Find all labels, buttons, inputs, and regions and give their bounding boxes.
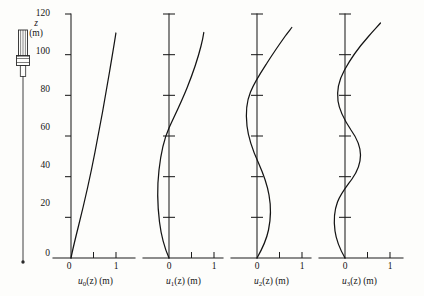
curve-mode-0 [71,33,116,258]
y-tick-0: 0 [22,248,50,259]
panel-mode-2 [229,0,314,296]
y-tick-80: 80 [22,84,50,95]
y-tick-100: 100 [22,46,50,57]
panel-mode-3 [317,0,407,296]
panel-3-caption-rest: (z) (m) [350,276,377,286]
curve-mode-2 [246,28,291,259]
panel-0-xtick-1: 1 [108,261,124,271]
y-tick-120: 120 [22,8,50,19]
panel-2-svg [229,0,314,296]
panel-mode-1 [141,0,226,296]
y-tick-60: 60 [22,122,50,133]
y-tick-20: 20 [22,198,50,209]
panel-3-caption: u3(z) (m) [307,276,412,287]
y-tick-40: 40 [22,160,50,171]
platform-block [17,56,30,66]
mode-shapes-figure: 120 z (m) 100 80 60 40 20 0 0 1 u0(z) (m… [0,0,424,296]
panel-1-xtick-1: 1 [206,261,222,271]
panel-2-caption-rest: (z) (m) [262,276,289,286]
base-marker [21,260,24,263]
panel-3-xtick-1: 1 [382,261,398,271]
panel-0-caption-rest: (z) (m) [86,276,113,286]
y-axis-title-symbol: z [22,18,50,29]
panel-3-svg [317,0,407,296]
pile-stub [20,66,25,77]
curve-mode-1 [158,33,204,259]
panel-2-xtick-0: 0 [249,261,265,271]
panel-mode-0 [53,0,138,296]
panel-0-svg [53,0,138,296]
panel-0-xtick-0: 0 [61,261,77,271]
curve-mode-3 [334,23,380,258]
panel-2-xtick-1: 1 [294,261,310,271]
panel-1-caption-rest: (z) (m) [174,276,201,286]
panel-1-svg [141,0,226,296]
panel-1-xtick-0: 0 [161,261,177,271]
y-axis-title-unit: (m) [22,28,50,39]
panel-3-xtick-0: 0 [337,261,353,271]
y-axis-title-z: z [34,18,38,28]
